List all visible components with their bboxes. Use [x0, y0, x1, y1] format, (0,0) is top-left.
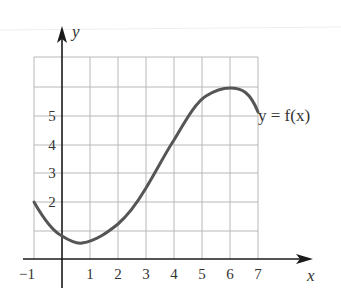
function-label: y = f(x)	[258, 106, 310, 125]
x-axis-label: x	[306, 266, 315, 285]
x-tick-4: 4	[170, 266, 178, 282]
page-edge-line	[0, 27, 341, 30]
x-tick-6: 6	[226, 266, 234, 282]
y-axis-label: y	[70, 22, 80, 41]
x-tick-1: 1	[86, 266, 94, 282]
y-tick-3: 3	[48, 165, 56, 181]
x-tick-3: 3	[142, 266, 150, 282]
y-tick-2: 2	[48, 194, 56, 210]
x-tick-neg1: −1	[19, 266, 35, 282]
y-tick-5: 5	[48, 108, 56, 124]
x-tick-7: 7	[254, 266, 262, 282]
function-graph: −1 1 2 3 4 5 6 7 2 3 4 5 y x y = f(x)	[0, 0, 341, 295]
x-tick-5: 5	[198, 266, 206, 282]
x-tick-2: 2	[114, 266, 122, 282]
y-tick-4: 4	[48, 137, 56, 153]
